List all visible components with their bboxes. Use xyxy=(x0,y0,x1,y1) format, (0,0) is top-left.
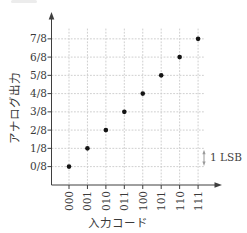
x-tick-label: 111 xyxy=(193,190,204,210)
lsb-arrow-head-bottom xyxy=(202,162,205,167)
x-tick-label: 010 xyxy=(100,190,111,210)
dac-transfer-function-chart: 0/81/82/83/84/85/86/87/8 000001010011100… xyxy=(0,0,247,233)
data-point xyxy=(177,55,182,60)
y-tick-label: 6/8 xyxy=(16,51,47,64)
y-axis-title: アナログ出力 xyxy=(6,72,22,144)
data-point xyxy=(104,128,109,133)
lsb-annotation-label: 1 LSB xyxy=(210,151,242,163)
data-point xyxy=(122,110,127,115)
x-tick-label: 000 xyxy=(64,190,75,210)
data-point xyxy=(196,37,201,42)
x-axis-title: 入力コード xyxy=(88,214,148,230)
y-axis-arrowhead xyxy=(49,12,55,20)
lsb-arrow-head-top xyxy=(202,150,205,155)
data-point xyxy=(140,91,145,96)
x-tick-label: 101 xyxy=(156,190,167,210)
y-tick-label: 0/8 xyxy=(16,160,47,173)
x-tick-label: 110 xyxy=(174,190,185,210)
data-point xyxy=(159,73,164,78)
x-tick-label: 001 xyxy=(82,190,93,210)
x-tick-label: 100 xyxy=(137,190,148,210)
data-point xyxy=(67,164,72,169)
data-point xyxy=(85,146,90,151)
x-axis-arrowhead xyxy=(215,182,223,188)
y-tick-label: 7/8 xyxy=(16,32,47,45)
x-tick-label: 011 xyxy=(119,190,130,210)
